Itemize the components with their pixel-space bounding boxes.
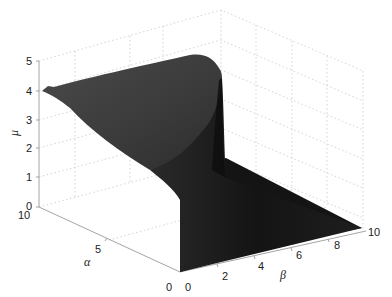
z-tick-4: 4 <box>26 85 32 97</box>
beta-axis-label: β <box>279 268 286 282</box>
alpha-tick-0: 0 <box>166 281 172 293</box>
beta-tick-0: 0 <box>185 281 191 293</box>
alpha-tick-5: 5 <box>95 243 101 255</box>
beta-tick-2: 2 <box>222 270 228 282</box>
z-axis-label: μ <box>7 130 21 137</box>
alpha-tick-10: 10 <box>18 209 30 221</box>
z-tick-2: 2 <box>26 142 32 154</box>
beta-tick-6: 6 <box>296 249 302 261</box>
alpha-axis-label: α <box>84 255 91 269</box>
beta-tick-4: 4 <box>258 260 264 272</box>
alpha-axis-line <box>39 207 180 272</box>
z-tick-1: 1 <box>26 171 32 183</box>
beta-tick-8: 8 <box>334 239 340 251</box>
beta-tick-10: 10 <box>368 226 380 238</box>
alpha-tick-labels: 10 5 0 <box>18 209 172 293</box>
z-tick-3: 3 <box>26 114 32 126</box>
z-tick-labels: 5 4 3 2 1 0 <box>26 55 32 212</box>
z-tick-5: 5 <box>26 55 32 67</box>
surface-plot: 5 4 3 2 1 0 10 5 0 0 2 4 6 8 10 μ α β <box>0 0 392 297</box>
